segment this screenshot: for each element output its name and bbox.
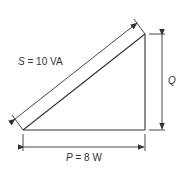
hypotenuse-s: [23, 34, 145, 130]
triangle: [23, 34, 145, 130]
power-triangle-diagram: [0, 0, 186, 170]
p-dimension: [23, 134, 145, 151]
q-label: Q: [168, 75, 176, 86]
s-dimension: [12, 19, 145, 130]
s-label: S = 10 VA: [18, 56, 63, 67]
q-dimension: [149, 34, 165, 130]
p-label: P = 8 W: [66, 152, 102, 163]
